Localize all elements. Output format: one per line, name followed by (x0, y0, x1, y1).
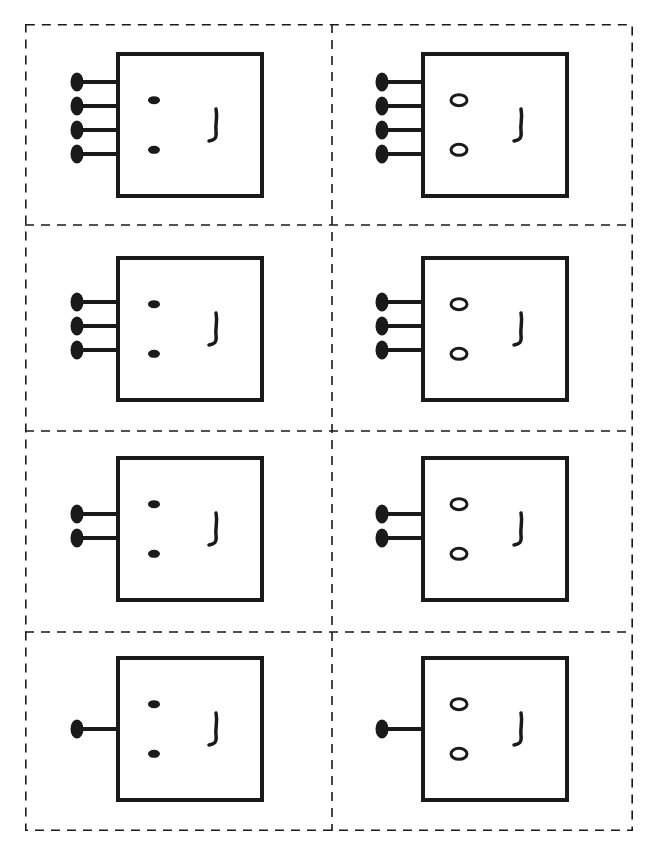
square-body (423, 458, 567, 600)
pin-icon (376, 145, 424, 164)
lower-eye-icon (148, 550, 160, 558)
pin-icon (376, 97, 424, 116)
card-2-1 (66, 256, 274, 402)
square-body (118, 658, 262, 800)
pin-icon (376, 317, 424, 336)
square-body (423, 258, 567, 400)
pin-icon (71, 529, 119, 548)
upper-eye-icon (148, 300, 160, 308)
card-1-2 (371, 52, 579, 198)
pin-icon (376, 529, 424, 548)
pin-icon (376, 293, 424, 312)
upper-eye-icon (148, 500, 160, 508)
lower-eye-icon (148, 146, 160, 154)
card-4-1 (66, 656, 274, 802)
pin-icon (376, 73, 424, 92)
pin-icon (71, 73, 119, 92)
pin-icon (71, 505, 119, 524)
lower-eye-icon (148, 350, 160, 358)
card-3-1 (66, 456, 274, 602)
pin-icon (71, 121, 119, 140)
lower-eye-icon (148, 750, 160, 758)
pin-icon (71, 341, 119, 360)
square-body (118, 458, 262, 600)
card-3-2 (371, 456, 579, 602)
upper-eye-icon (148, 700, 160, 708)
pin-icon (376, 341, 424, 360)
pin-icon (71, 97, 119, 116)
worksheet (25, 24, 633, 831)
square-body (118, 54, 262, 196)
pin-icon (71, 317, 119, 336)
square-body (423, 658, 567, 800)
upper-eye-icon (148, 96, 160, 104)
pin-icon (376, 121, 424, 140)
pin-icon (71, 293, 119, 312)
pin-icon (376, 505, 424, 524)
card-2-2 (371, 256, 579, 402)
square-body (423, 54, 567, 196)
card-4-2 (371, 656, 579, 802)
pin-icon (71, 145, 119, 164)
card-1-1 (66, 52, 274, 198)
pin-icon (71, 720, 119, 739)
pin-icon (376, 720, 424, 739)
square-body (118, 258, 262, 400)
